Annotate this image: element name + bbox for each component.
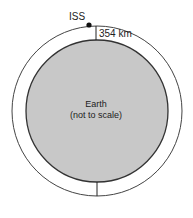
scale-note: (not to scale)	[70, 110, 122, 120]
altitude-label: 354 km	[99, 28, 132, 39]
iss-dot-icon	[86, 22, 91, 27]
iss-label: ISS	[69, 11, 85, 22]
diagram-canvas: ISS 354 km Earth (not to scale)	[0, 0, 193, 218]
earth-label: Earth	[85, 99, 107, 109]
iss-orbit-diagram: ISS 354 km Earth (not to scale)	[0, 0, 193, 218]
